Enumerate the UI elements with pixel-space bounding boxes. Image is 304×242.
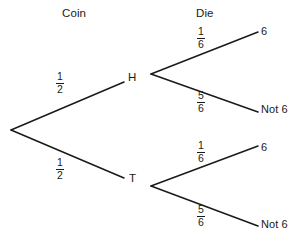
branch-probability-root-heads: 1 2	[56, 71, 64, 95]
branch-line-root-tails	[11, 130, 124, 178]
outcome-label-heads-six: 6	[261, 25, 267, 37]
fraction-numerator: 1	[197, 26, 205, 37]
fraction-denominator: 2	[56, 84, 64, 95]
column-header-coin: Coin	[62, 7, 86, 19]
node-label-heads: H	[128, 71, 136, 83]
fraction-denominator: 6	[197, 103, 205, 114]
branch-probability-tails-not-six: 5 6	[197, 204, 205, 228]
fraction-numerator: 5	[197, 204, 205, 215]
fraction-denominator: 2	[56, 170, 64, 181]
fraction-numerator: 5	[197, 90, 205, 101]
fraction-numerator: 1	[56, 157, 64, 168]
outcome-label-tails-six: 6	[261, 141, 267, 153]
fraction-denominator: 6	[197, 153, 205, 164]
column-header-die: Die	[196, 7, 214, 19]
branch-probability-heads-six: 1 6	[197, 26, 205, 50]
branch-probability-root-tails: 1 2	[56, 157, 64, 181]
node-label-tails: T	[129, 172, 136, 184]
fraction-denominator: 6	[197, 39, 205, 50]
outcome-label-heads-not-six: Not 6	[261, 103, 288, 115]
tree-branch-lines	[0, 0, 304, 242]
branch-line-root-heads	[11, 82, 124, 130]
branch-probability-heads-not-six: 5 6	[197, 90, 205, 114]
fraction-numerator: 1	[56, 71, 64, 82]
branch-probability-tails-six: 1 6	[197, 140, 205, 164]
probability-tree-diagram: Coin Die H T 6 Not 6 6 Not 6 1 2 1 2 1 6…	[0, 0, 304, 242]
fraction-numerator: 1	[197, 140, 205, 151]
fraction-denominator: 6	[197, 217, 205, 228]
outcome-label-tails-not-six: Not 6	[261, 218, 288, 230]
